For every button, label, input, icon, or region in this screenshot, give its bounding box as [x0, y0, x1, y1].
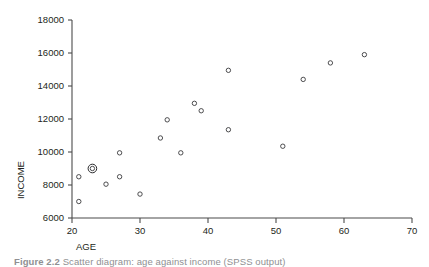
open-circle-icon	[199, 109, 203, 113]
open-circle-icon	[192, 101, 196, 105]
y-axis-title: INCOME	[15, 161, 26, 199]
data-point	[281, 144, 285, 148]
y-axis-tick-labels: 600080001000012000140001600018000	[38, 14, 64, 223]
data-point-markers	[77, 52, 367, 203]
x-tick-label: 50	[271, 225, 282, 236]
figure-caption-text: Scatter diagram: age against income (SPS…	[63, 256, 286, 267]
data-point-highlighted	[88, 164, 97, 173]
figure-caption: Figure 2.2 Scatter diagram: age against …	[14, 256, 424, 267]
open-circle-icon	[226, 128, 230, 132]
data-point	[138, 192, 142, 196]
open-circle-icon	[165, 118, 169, 122]
data-point	[77, 199, 81, 203]
x-axis-title: AGE	[76, 241, 96, 252]
open-circle-icon	[104, 182, 108, 186]
data-point	[301, 77, 305, 81]
open-circle-icon	[77, 199, 81, 203]
open-circle-icon	[158, 136, 162, 140]
y-tick-label: 18000	[38, 14, 64, 25]
open-circle-icon	[301, 77, 305, 81]
overlap-ring-icon	[88, 164, 97, 173]
open-circle-icon	[328, 61, 332, 65]
data-point	[192, 101, 196, 105]
plot-axes	[72, 20, 412, 218]
x-axis-tick-marks	[72, 218, 412, 223]
data-point	[226, 128, 230, 132]
open-circle-icon	[362, 52, 366, 56]
data-point	[328, 61, 332, 65]
data-point	[199, 109, 203, 113]
data-point	[179, 151, 183, 155]
y-tick-label: 12000	[38, 113, 64, 124]
x-tick-label: 60	[339, 225, 350, 236]
open-circle-icon	[281, 144, 285, 148]
data-point	[104, 182, 108, 186]
x-axis-tick-labels: 203040506070	[67, 225, 418, 236]
x-tick-label: 70	[407, 225, 418, 236]
figure-caption-number: Figure 2.2	[14, 256, 60, 267]
y-tick-label: 16000	[38, 47, 64, 58]
y-tick-label: 6000	[43, 212, 64, 223]
data-point	[362, 52, 366, 56]
open-circle-icon	[226, 68, 230, 72]
data-point	[77, 175, 81, 179]
y-axis-tick-marks	[68, 20, 72, 218]
data-point	[226, 68, 230, 72]
open-circle-icon	[138, 192, 142, 196]
data-point	[117, 151, 121, 155]
x-tick-label: 30	[135, 225, 146, 236]
data-point	[158, 136, 162, 140]
open-circle-icon	[117, 151, 121, 155]
y-tick-label: 10000	[38, 146, 64, 157]
y-tick-label: 8000	[43, 179, 64, 190]
y-tick-label: 14000	[38, 80, 64, 91]
data-point	[165, 118, 169, 122]
open-circle-icon	[117, 175, 121, 179]
open-circle-icon	[90, 166, 94, 170]
x-tick-label: 20	[67, 225, 78, 236]
x-tick-label: 40	[203, 225, 214, 236]
open-circle-icon	[179, 151, 183, 155]
open-circle-icon	[77, 175, 81, 179]
data-point	[117, 175, 121, 179]
